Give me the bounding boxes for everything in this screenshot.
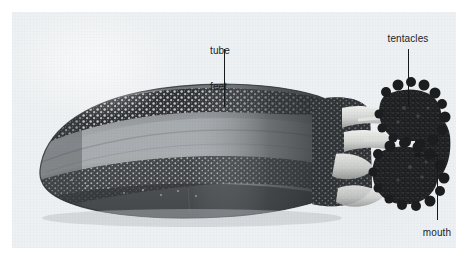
specimen-illustration xyxy=(12,12,456,248)
specimen-photograph xyxy=(12,12,456,248)
tentacle-crown-region xyxy=(312,77,451,211)
figure-root: tube feet tentacles mouth xyxy=(0,0,469,262)
